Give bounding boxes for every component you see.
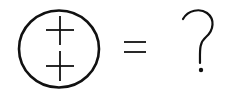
puzzle-equation — [0, 0, 227, 97]
plus-icon-bottom — [46, 51, 74, 81]
plus-icon-top — [46, 16, 74, 45]
circle-with-two-plus-signs — [19, 11, 99, 88]
circle-outline — [19, 11, 99, 88]
question-mark-icon — [183, 10, 213, 72]
equals-sign — [124, 42, 146, 52]
